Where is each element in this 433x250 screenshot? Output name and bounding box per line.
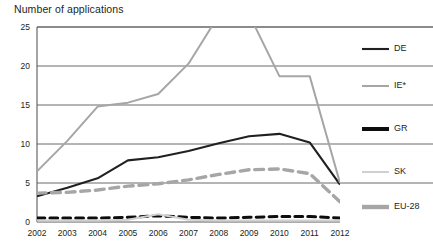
x-axis-tick-label: 2002: [20, 229, 54, 238]
x-axis-tick-label: 2011: [293, 229, 327, 238]
chart-plot-svg: [0, 0, 433, 250]
x-axis-tick-label: 2008: [202, 229, 236, 238]
plot-frame: [37, 27, 433, 222]
y-axis-tick-label: 0: [8, 218, 30, 227]
y-axis-tick-label: 15: [8, 101, 30, 110]
y-axis-tick-label: 10: [8, 140, 30, 149]
legend-label-gr: GR: [394, 124, 408, 133]
y-axis-tick-label: 5: [8, 179, 30, 188]
series-line-ie-: [37, 15, 340, 183]
legend-label-sk: SK: [394, 167, 406, 176]
x-axis-tick-label: 2007: [172, 229, 206, 238]
legend-label-ie-: IE*: [394, 81, 406, 90]
x-axis-tick-label: 2005: [111, 229, 145, 238]
legend-label-de: DE: [394, 44, 407, 53]
x-axis-tick-label: 2004: [81, 229, 115, 238]
chart-container: Number of applications 0510152025 200220…: [0, 0, 433, 250]
legend-label-eu-28: EU-28: [394, 202, 420, 211]
series-line-eu-28: [37, 169, 340, 202]
series-line-gr: [37, 216, 340, 218]
series-line-de: [37, 134, 340, 196]
x-axis-tick-label: 2009: [232, 229, 266, 238]
y-axis-tick-label: 25: [8, 23, 30, 32]
y-axis-tick-label: 20: [8, 62, 30, 71]
x-axis-tick-label: 2010: [262, 229, 296, 238]
data-series-group: [37, 15, 340, 221]
x-axis-tick-label: 2006: [141, 229, 175, 238]
x-axis-tick-label: 2003: [50, 229, 84, 238]
x-axis-tick-label: 2012: [323, 229, 357, 238]
